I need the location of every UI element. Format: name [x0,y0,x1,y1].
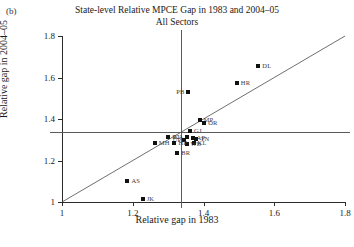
data-point-marker [125,179,129,183]
data-point-label: AS [131,177,140,184]
y-tick-label: 1.2 [44,156,55,166]
y-tick [58,202,62,203]
y-tick [58,78,62,79]
data-point-label: MH [159,139,170,146]
chart-title: State-level Relative MPCE Gap in 1983 an… [0,4,354,16]
data-point-label: JK [147,195,155,202]
data-point-label: WB [191,140,202,147]
data-point-marker [175,151,179,155]
y-axis-title: Relative gap in 2004–05 [0,20,9,118]
data-point-marker [235,81,239,85]
data-point-label: BR [181,149,190,156]
data-point-marker [153,141,157,145]
y-tick-label: 1.8 [44,31,55,41]
y-tick [58,36,62,37]
x-tick [204,202,205,206]
x-tick [274,202,275,206]
figure-panel: (b) State-level Relative MPCE Gap in 198… [0,0,354,247]
data-point-marker [188,129,192,133]
data-point-label: HR [241,79,250,86]
data-point-label: OR [208,119,217,126]
plot-area: 11.21.41.61.8 11.21.41.61.8 DLHRPBMPORGJ… [62,36,345,202]
data-point-marker [172,141,176,145]
y-tick-label: 1.4 [44,114,55,124]
y-tick-label: 1.6 [44,73,55,83]
data-point-marker [141,197,145,201]
x-tick [62,202,63,206]
x-axis-title: Relative gap in 1983 [0,214,354,225]
data-point-label: HP [178,139,187,146]
data-point-marker [256,64,260,68]
data-point-marker [186,90,190,94]
y-tick [58,119,62,120]
data-point-label: PB [176,88,184,95]
y-tick [58,161,62,162]
chart-title-block: State-level Relative MPCE Gap in 1983 an… [0,4,354,28]
data-point-marker [202,121,206,125]
chart-subtitle: All Sectors [0,16,354,28]
x-tick [133,202,134,206]
x-tick [345,202,346,206]
data-point-marker [198,118,202,122]
data-point-label: RJ [172,133,179,140]
y-tick-label: 1 [51,197,56,207]
data-point-label: DL [262,62,271,69]
